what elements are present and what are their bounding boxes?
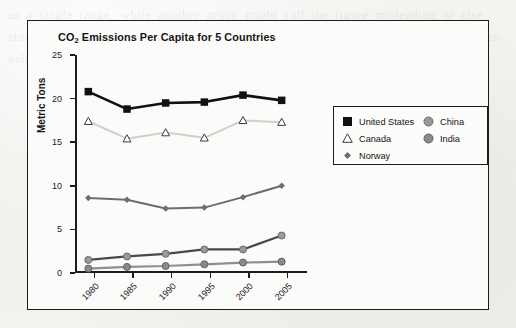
series-line — [88, 120, 281, 138]
diamond-marker-icon — [341, 149, 354, 162]
legend-item-label: Norway — [359, 151, 390, 161]
data-point — [162, 99, 170, 107]
x-axis-tick-label: 1990 — [157, 281, 178, 302]
legend-item-united-states[interactable]: United States — [341, 113, 414, 130]
x-axis-tick-label: 2005 — [273, 281, 294, 302]
data-point — [85, 265, 92, 272]
chart-title: CO2 Emissions Per Capita for 5 Countries — [58, 31, 276, 43]
legend-item-norway[interactable]: Norway — [341, 147, 414, 164]
x-axis-tick: 1990 — [171, 273, 173, 278]
y-axis-tick-label: 5 — [57, 224, 62, 234]
data-point — [240, 259, 247, 266]
series-plot — [75, 55, 307, 273]
data-point — [240, 194, 247, 201]
plot-area: 0510152025 198019851990199520002005 — [75, 55, 307, 273]
series-norway — [85, 183, 285, 212]
data-point — [278, 97, 286, 105]
x-axis-tick-label: 1985 — [118, 281, 139, 302]
legend-item-label: India — [440, 134, 460, 144]
data-point — [201, 98, 209, 106]
circle-marker-icon — [422, 132, 435, 145]
data-point — [85, 88, 92, 96]
legend-column-left: United StatesCanadaNorway — [341, 113, 414, 164]
x-axis-tick: 1995 — [210, 273, 212, 278]
legend-item-label: China — [440, 117, 464, 127]
data-point — [239, 91, 247, 99]
data-point — [278, 183, 285, 190]
legend-column-right: ChinaIndia — [422, 113, 464, 147]
data-point — [201, 261, 208, 268]
legend-item-label: United States — [359, 117, 414, 127]
series-united-states — [85, 88, 286, 113]
data-point — [123, 105, 131, 113]
chart-title-rest: Emissions Per Capita for 5 Countries — [79, 31, 276, 43]
data-point — [201, 204, 207, 211]
chart-legend: United StatesCanadaNorway ChinaIndia — [333, 106, 488, 165]
data-point — [162, 205, 169, 212]
circle-marker-icon — [422, 115, 435, 128]
y-axis-tick-label: 25 — [52, 50, 62, 60]
chart-title-subscript: 2 — [74, 36, 78, 45]
legend-item-canada[interactable]: Canada — [341, 130, 414, 147]
series-line — [88, 186, 281, 209]
data-point — [278, 232, 285, 239]
legend-item-label: Canada — [359, 134, 391, 144]
data-point — [201, 246, 208, 253]
chart-title-co: CO — [58, 31, 74, 43]
x-axis-tick-label: 2000 — [234, 281, 255, 302]
y-axis-tick-label: 10 — [52, 181, 62, 191]
data-point — [124, 197, 131, 204]
x-axis-tick: 1980 — [94, 273, 96, 278]
data-point — [84, 117, 92, 124]
series-canada — [84, 116, 285, 141]
data-point — [278, 258, 285, 265]
data-point — [124, 253, 131, 260]
data-point — [124, 263, 131, 270]
y-axis-tick-label: 20 — [52, 94, 62, 104]
legend-item-china[interactable]: China — [422, 113, 464, 130]
y-axis-title: Metric Tons — [36, 78, 47, 133]
legend-item-india[interactable]: India — [422, 130, 464, 147]
x-axis-tick: 2000 — [248, 273, 250, 278]
series-line — [88, 236, 281, 260]
data-point — [162, 263, 169, 270]
series-india — [85, 258, 285, 272]
series-line — [88, 262, 281, 269]
x-axis-tick-label: 1995 — [195, 281, 216, 302]
data-point — [162, 250, 169, 257]
x-axis-tick-label: 1980 — [79, 281, 100, 302]
y-axis-tick-label: 15 — [52, 137, 62, 147]
figure-frame: CO2 Emissions Per Capita for 5 Countries… — [27, 20, 489, 310]
square-marker-icon — [341, 115, 354, 128]
x-axis-tick: 2005 — [287, 273, 289, 278]
y-axis-tick-label: 0 — [57, 268, 62, 278]
triangle-marker-icon — [341, 132, 354, 145]
data-point — [240, 246, 247, 253]
series-line — [88, 92, 281, 109]
series-china — [85, 232, 285, 263]
data-point — [85, 195, 92, 202]
x-axis-tick: 1985 — [132, 273, 134, 278]
data-point — [85, 256, 92, 263]
